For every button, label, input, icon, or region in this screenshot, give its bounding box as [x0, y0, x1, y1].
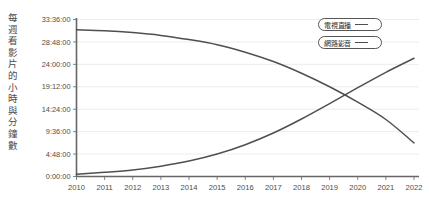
x-tick-label: 2011: [96, 183, 112, 192]
y-tick-label: 24:00:00: [42, 60, 71, 69]
x-tick-label: 2010: [68, 183, 85, 192]
y-tick-label: 28:48:00: [42, 38, 71, 47]
x-tick-label: 2021: [377, 183, 394, 192]
x-tick-label: 2018: [293, 183, 310, 192]
x-tick-label: 2019: [321, 183, 338, 192]
x-tick-label: 2014: [181, 183, 198, 192]
y-tick-label: 9:36:00: [46, 127, 71, 136]
y-tick-label: 0:00:00: [46, 172, 71, 181]
y-axis-ticks: 33:36:0028:48:0024:00:0019:12:0014:24:00…: [42, 15, 77, 181]
x-axis-ticks: 2010201120122013201420152016201720182019…: [68, 177, 422, 192]
x-tick-label: 2017: [265, 183, 282, 192]
y-tick-label: 4:48:00: [46, 150, 71, 159]
legend-line-swatch-tv: [355, 24, 368, 26]
data-series: [77, 30, 415, 174]
x-tick-label: 2012: [124, 183, 141, 192]
legend-label-web: 網路影音: [324, 38, 351, 48]
legend-item-web[interactable]: 網路影音: [318, 36, 382, 49]
y-tick-label: 33:36:00: [42, 15, 71, 24]
x-tick-label: 2015: [209, 183, 226, 192]
series-line-web: [77, 58, 415, 174]
y-tick-label: 19:12:00: [42, 82, 71, 91]
chart-plot-area: 33:36:0028:48:0024:00:0019:12:0014:24:00…: [0, 0, 429, 213]
y-tick-label: 14:24:00: [42, 105, 71, 114]
chart-container: 每週看影片的小時與分鐘數 33:36:0028:48:0024:00:0019:…: [0, 0, 429, 213]
legend-label-tv: 電視直播: [324, 20, 351, 30]
x-tick-label: 2022: [406, 183, 423, 192]
x-tick-label: 2020: [349, 183, 366, 192]
x-tick-label: 2013: [152, 183, 169, 192]
legend-item-tv[interactable]: 電視直播: [318, 18, 382, 31]
legend-line-swatch-web: [355, 42, 368, 44]
x-tick-label: 2016: [237, 183, 254, 192]
